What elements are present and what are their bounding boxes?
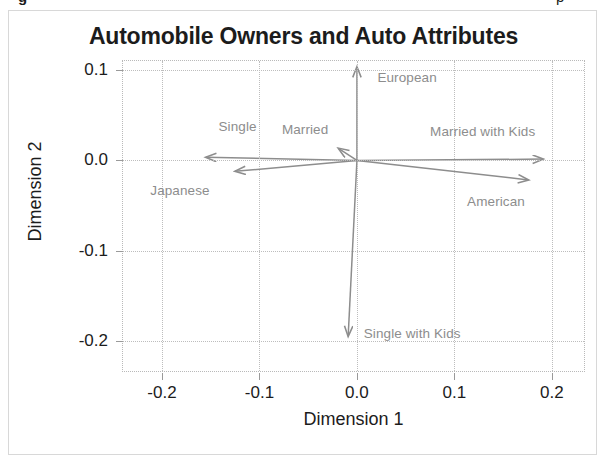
vector-arrow	[348, 160, 357, 336]
vector-label: Married with Kids	[430, 124, 535, 139]
y-axis-tick-label: 0.1	[84, 60, 108, 80]
figure-frame: Automobile Owners and Auto Attributes Di…	[8, 10, 597, 455]
x-gridline	[454, 61, 455, 371]
x-gridline	[552, 61, 553, 371]
x-axis-tick	[552, 373, 553, 380]
vector-layer	[123, 61, 586, 373]
y-axis-tick-label: 0.0	[84, 150, 108, 170]
chart-title: Automobile Owners and Auto Attributes	[9, 23, 598, 50]
cut-off-caption-fragments: g p	[0, 0, 606, 9]
y-axis-tick	[116, 70, 123, 71]
vector-arrow	[357, 160, 529, 179]
vector-label: European	[377, 70, 436, 85]
x-axis-tick-label: 0.0	[345, 383, 369, 403]
y-gridline	[123, 70, 584, 71]
x-axis-tick	[162, 373, 163, 380]
y-axis-tick	[116, 160, 123, 161]
vector-arrow	[235, 160, 357, 171]
x-axis-tick	[357, 373, 358, 380]
vector-label: American	[467, 194, 525, 209]
x-axis-tick-label: 0.1	[443, 383, 467, 403]
x-axis-tick	[454, 373, 455, 380]
x-gridline	[162, 61, 163, 371]
y-gridline	[123, 341, 584, 342]
vector-arrow	[338, 148, 357, 160]
vector-label: Single	[219, 119, 257, 134]
vector-label: Single with Kids	[364, 326, 461, 341]
y-axis-tick	[116, 341, 123, 342]
x-axis-tick-label: 0.2	[540, 383, 564, 403]
x-axis-tick-label: -0.2	[147, 383, 176, 403]
y-axis-tick	[116, 251, 123, 252]
caption-fragment-right: p	[556, 0, 564, 4]
vector-label: Japanese	[150, 183, 209, 198]
plot-panel: -0.2-0.10.00.10.20.10.0-0.1-0.2EuropeanS…	[122, 60, 585, 372]
vector-label: Married	[282, 122, 328, 137]
x-gridline	[357, 61, 358, 371]
y-gridline	[123, 160, 584, 161]
y-axis-title: Dimension 2	[25, 92, 46, 292]
y-axis-tick-label: -0.1	[79, 241, 108, 261]
x-gridline	[259, 61, 260, 371]
y-axis-tick-label: -0.2	[79, 331, 108, 351]
x-axis-title: Dimension 1	[122, 409, 585, 430]
caption-fragment-left: g	[18, 0, 27, 4]
y-gridline	[123, 251, 584, 252]
x-axis-tick-label: -0.1	[245, 383, 274, 403]
x-axis-tick	[259, 373, 260, 380]
